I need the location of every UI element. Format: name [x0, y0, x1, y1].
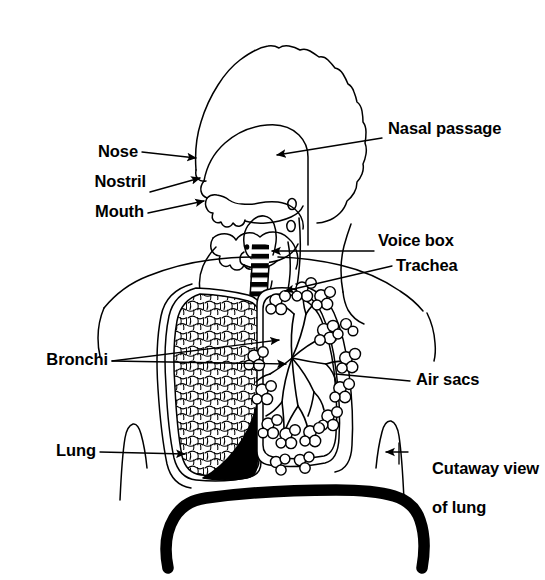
respiratory-system-diagram: Nose Nostril Mouth Bronchi Lung Nasal pa… — [0, 0, 545, 580]
label-cutaway-view-line1: Cutaway view — [432, 459, 539, 477]
label-nose: Nose — [0, 142, 138, 161]
head-profile — [196, 46, 367, 324]
right-lung — [244, 278, 360, 475]
nasal-cavity — [201, 125, 308, 245]
label-air-sacs: Air sacs — [416, 370, 479, 389]
label-bronchi: Bronchi — [0, 350, 108, 369]
label-nasal-passage: Nasal passage — [388, 119, 501, 138]
label-voice-box: Voice box — [378, 231, 454, 250]
body-outline-bracket-left — [120, 424, 147, 500]
label-mouth: Mouth — [0, 202, 144, 221]
label-lung: Lung — [0, 441, 96, 460]
label-cutaway-view-line2: of lung — [432, 498, 486, 516]
left-lung — [157, 284, 261, 488]
diaphragm — [166, 490, 424, 568]
label-trachea: Trachea — [396, 256, 458, 275]
label-nostril: Nostril — [0, 172, 146, 191]
